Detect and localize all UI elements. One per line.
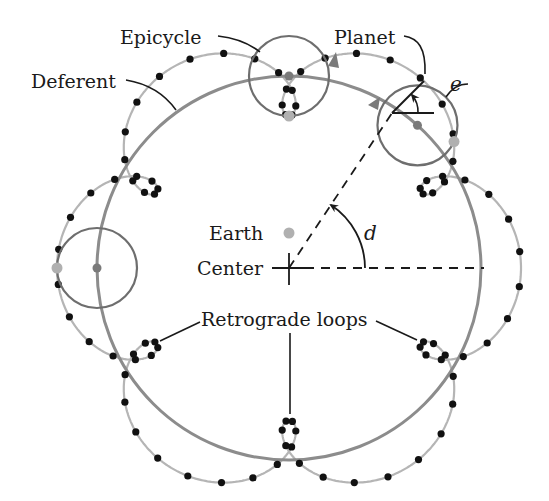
- trajectory-dot: [320, 474, 327, 481]
- trajectory-dot: [156, 73, 163, 80]
- trajectory-dot: [154, 455, 161, 462]
- label-center: Center: [197, 257, 264, 279]
- planet-position-dot: [52, 263, 63, 274]
- trajectory-dot: [417, 74, 424, 81]
- trajectory-dot: [111, 176, 118, 183]
- trajectory-dot: [282, 442, 289, 449]
- trajectory-dot: [429, 189, 436, 196]
- trajectory-dot: [439, 101, 446, 108]
- trajectory-dot: [441, 178, 448, 185]
- trajectory-dot: [132, 428, 139, 435]
- label-earth: Earth: [209, 222, 263, 244]
- angle-d-arc: [331, 205, 365, 268]
- trajectory-dot: [423, 177, 430, 184]
- trajectory-dot: [438, 430, 445, 437]
- trajectory-dot: [449, 158, 456, 165]
- trajectory-dot: [66, 313, 73, 320]
- trajectory-dot: [141, 189, 148, 196]
- trajectory-dot: [86, 338, 93, 345]
- trajectory-dot: [184, 472, 191, 479]
- trajectory-dot: [289, 418, 296, 425]
- trajectory-dot: [121, 399, 128, 406]
- trajectory-dot: [516, 248, 523, 255]
- label-retrograde-loops: Retrograde loops: [201, 308, 368, 330]
- trajectory-dot: [218, 479, 225, 486]
- trajectory-dot: [151, 338, 158, 345]
- epicycle-center-dot: [93, 264, 102, 273]
- trajectory-dot: [133, 173, 140, 180]
- trajectory-dot: [460, 353, 467, 360]
- trajectory-dot: [461, 176, 468, 183]
- epicycle-leader: [218, 36, 260, 52]
- trajectory-dot: [516, 283, 523, 290]
- earth-dot: [284, 228, 295, 239]
- retrograde-leader-right: [376, 321, 417, 340]
- trajectory-dot: [279, 427, 286, 434]
- planet-position-dot: [284, 111, 295, 122]
- trajectory-dot: [450, 373, 457, 380]
- trajectory-dot: [485, 191, 492, 198]
- deferent-direction-arrow-right: [368, 97, 380, 110]
- label-epicycle: Epicycle: [120, 26, 201, 48]
- label-angle-d: d: [364, 221, 377, 245]
- label-planet: Planet: [334, 26, 396, 48]
- retrograde-leader-left: [160, 322, 200, 341]
- trajectory-dot: [484, 339, 491, 346]
- trajectory-dot: [130, 351, 137, 358]
- trajectory-dot: [220, 50, 227, 57]
- trajectory-dot: [292, 102, 299, 109]
- trajectory-dot: [148, 352, 155, 359]
- trajectory-dot: [249, 474, 256, 481]
- trajectory-dot: [438, 356, 445, 363]
- trajectory-dot: [420, 190, 427, 197]
- trajectory-dot: [351, 479, 358, 486]
- trajectory-dot: [417, 344, 424, 351]
- trajectory-dot: [449, 401, 456, 408]
- epicycle-center-dot: [413, 121, 422, 130]
- trajectory-dot: [430, 340, 437, 347]
- trajectory-dot: [292, 427, 299, 434]
- trajectory-dot: [282, 418, 289, 425]
- trajectory-dot: [279, 101, 286, 108]
- trajectory-dot: [505, 216, 512, 223]
- trajectory-dot: [110, 352, 117, 359]
- trajectory-dot: [121, 156, 128, 163]
- trajectory-dot: [353, 50, 360, 57]
- trajectory-dot: [133, 99, 140, 106]
- trajectory-dot: [297, 68, 304, 75]
- trajectory-dot: [387, 56, 394, 63]
- planet-dot: [449, 136, 460, 147]
- trajectory-dot: [384, 473, 391, 480]
- trajectory-dot: [274, 461, 281, 468]
- trajectory-dot: [504, 315, 511, 322]
- trajectory-dot: [422, 351, 429, 358]
- trajectory-dot: [122, 371, 129, 378]
- trajectory-dot: [415, 456, 422, 463]
- trajectory-dot: [275, 69, 282, 76]
- trajectory-dot: [87, 189, 94, 196]
- trajectory-dot: [142, 340, 149, 347]
- epicycle-diagram: Epicycle Deferent Planet e Earth d Cente…: [0, 0, 549, 501]
- trajectory-dot: [122, 128, 129, 135]
- trajectory-dot: [289, 87, 296, 94]
- label-angle-e: e: [450, 72, 462, 96]
- trajectory-dot: [296, 460, 303, 467]
- epicycle-center-dot: [285, 72, 294, 81]
- angle-e-arc: [412, 95, 418, 113]
- trajectory-dot: [186, 56, 193, 63]
- trajectory-dot: [67, 214, 74, 221]
- trajectory-dot: [154, 185, 161, 192]
- label-deferent: Deferent: [31, 70, 116, 92]
- trajectory-dot: [148, 178, 155, 185]
